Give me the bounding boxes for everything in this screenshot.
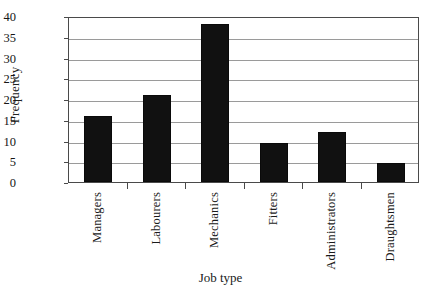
gridline [69,80,418,81]
bar [201,24,229,182]
y-axis-tick-label: 10 [0,135,16,148]
gridline [69,122,418,123]
y-axis-tick-label: 30 [0,52,16,65]
bar [260,143,288,182]
x-axis-tick-mark [302,183,303,189]
bar [318,132,346,182]
x-axis-category-label-text: Draughtsmen [382,192,397,262]
bar [84,116,112,182]
x-axis-title-text: Job type [199,270,243,285]
x-axis-category-label-text: Mechanics [207,192,222,248]
y-axis-tick-label: 40 [0,11,16,24]
x-axis-category-label-text: Managers [90,192,105,243]
x-axis-category-label-text: Administrators [324,192,339,270]
bar [377,163,405,182]
y-axis-tick-label: 25 [0,73,16,86]
y-axis-tick-label: 0 [0,177,16,190]
y-axis-tick-mark [64,183,68,184]
x-axis-title: Job type [0,270,441,286]
x-axis-category-label-text: Labourers [148,192,163,244]
gridline [69,143,418,144]
gridline [69,163,418,164]
y-axis-tick-label: 35 [0,32,16,45]
x-axis-tick-mark [185,183,186,189]
x-axis-tick-mark [244,183,245,189]
bar-chart-figure: Frequency 0510152025303540 ManagersLabou… [0,0,441,303]
plot-area [68,17,419,183]
gridline [69,60,418,61]
gridline [69,101,418,102]
bar [143,95,171,182]
y-axis-tick-label: 5 [0,156,16,169]
y-axis-tick-label: 20 [0,94,16,107]
y-axis-tick-label: 15 [0,115,16,128]
x-axis-category-label-text: Fitters [265,192,280,225]
x-axis-tick-mark [361,183,362,189]
x-axis-tick-mark [127,183,128,189]
gridline [69,39,418,40]
